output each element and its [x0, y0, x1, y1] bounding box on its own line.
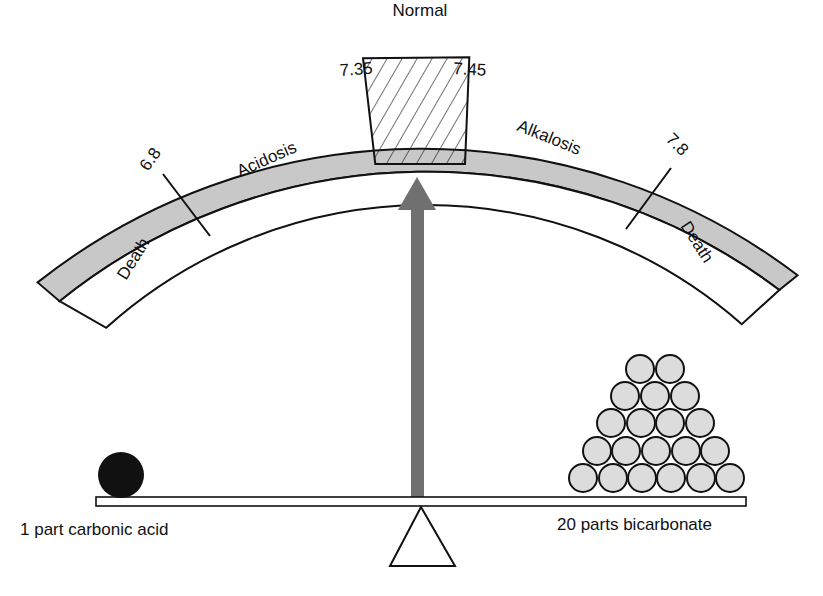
tick-7-35: 7.35 [339, 59, 373, 80]
ph-pointer-arrow [398, 177, 436, 497]
carbonic-acid-label: 1 part carbonic acid [20, 520, 168, 539]
carbonic-acid-ball [98, 452, 144, 498]
zone-label-alkalosis: Alkalosis [515, 116, 584, 159]
normal-title: Normal [393, 1, 448, 20]
tick-7-8: 7.8 [662, 129, 692, 159]
bicarbonate-label: 20 parts bicarbonate [557, 515, 712, 534]
tick-6-8: 6.8 [136, 144, 165, 174]
bicarbonate-pyramid [569, 355, 744, 492]
fulcrum-triangle [390, 507, 455, 566]
balance-beam [96, 497, 746, 506]
tick-7-45: 7.45 [453, 59, 487, 80]
acid-base-balance-diagram: 6.8 7.35 7.45 7.8 Death Acidosis Alkalos… [0, 0, 823, 596]
